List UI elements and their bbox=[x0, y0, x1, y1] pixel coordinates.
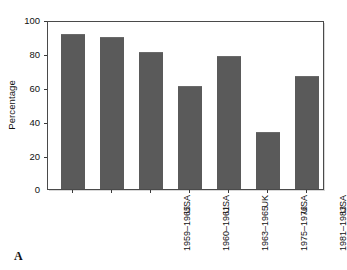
bar-0 bbox=[61, 34, 85, 189]
x-tick-mark-3 bbox=[189, 190, 190, 193]
bar-6 bbox=[295, 76, 319, 189]
y-axis-label: Percentage bbox=[6, 60, 20, 150]
figure-panel-a: Percentage 100 80 60 40 20 0 USA 1959–19… bbox=[0, 0, 347, 270]
y-tick-label-80: 80 bbox=[14, 50, 40, 60]
panel-letter: A bbox=[14, 249, 23, 264]
x-tick-mark-2 bbox=[150, 190, 151, 193]
y-tick-label-100: 100 bbox=[14, 16, 40, 26]
bar-2 bbox=[139, 52, 163, 189]
y-tick-label-60: 60 bbox=[14, 84, 40, 94]
bar-series bbox=[48, 22, 323, 189]
bar-1 bbox=[100, 37, 124, 189]
x-tick-mark-1 bbox=[111, 190, 112, 193]
bar-3 bbox=[178, 86, 202, 189]
x-tick-mark-4 bbox=[228, 190, 229, 193]
y-tick-label-0: 0 bbox=[14, 185, 40, 195]
x-tick-mark-0 bbox=[72, 190, 73, 193]
x-tick-label-6: USA 1981–1987 bbox=[296, 195, 347, 219]
bar-4 bbox=[217, 56, 241, 190]
y-tick-label-20: 20 bbox=[14, 152, 40, 162]
bar-5 bbox=[256, 132, 280, 189]
plot-area bbox=[47, 21, 324, 190]
y-tick-label-40: 40 bbox=[14, 118, 40, 128]
x-tick-mark-5 bbox=[267, 190, 268, 193]
x-tick-mark-6 bbox=[306, 190, 307, 193]
